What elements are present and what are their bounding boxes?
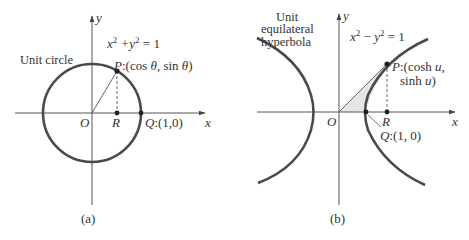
q-pointer: [368, 115, 381, 127]
axis-x-label-a: x: [204, 115, 211, 130]
point-p-label-a: P:(cos θ, sin θ): [113, 58, 193, 73]
panel-a: y x x2 +y2 = 1 Unit circle P:(cos θ, sin…: [15, 10, 211, 226]
origin-label-a: O: [80, 115, 90, 130]
point-q-label-b: Q:(1, 0): [380, 128, 421, 143]
panel-b: y x Unit equilateral hyperbola x2 − y2 =…: [257, 8, 458, 226]
equation-a: x2 +y2 = 1: [106, 35, 160, 51]
axis-y-label-b: y: [341, 8, 349, 23]
point-q-b: [364, 110, 369, 115]
point-r-label-a: R: [111, 115, 120, 130]
title-b-line2: equilateral: [261, 22, 314, 36]
point-p-b: [384, 61, 389, 66]
figure-canvas: y x x2 +y2 = 1 Unit circle P:(cos θ, sin…: [0, 0, 469, 240]
point-p-label-b-line1: P:(cosh u,: [391, 59, 445, 74]
point-p-label-b-line2: sinh u): [400, 73, 436, 88]
radius-op: [92, 71, 117, 113]
point-q-a: [139, 111, 144, 116]
origin-label-b: O: [327, 114, 337, 129]
caption-b: (b): [330, 211, 345, 226]
caption-a: (a): [81, 211, 95, 226]
point-q-label-a: Q:(1,0): [145, 115, 183, 130]
title-a: Unit circle: [20, 53, 74, 67]
point-r-label-b: R: [381, 114, 390, 129]
equation-b: x2 − y2 = 1: [349, 28, 405, 44]
axis-x-label-b: x: [451, 114, 458, 129]
title-b-line3: hyperbola: [261, 35, 311, 49]
axis-y-label-a: y: [94, 10, 102, 25]
hyperbola-left-branch: [257, 38, 314, 183]
